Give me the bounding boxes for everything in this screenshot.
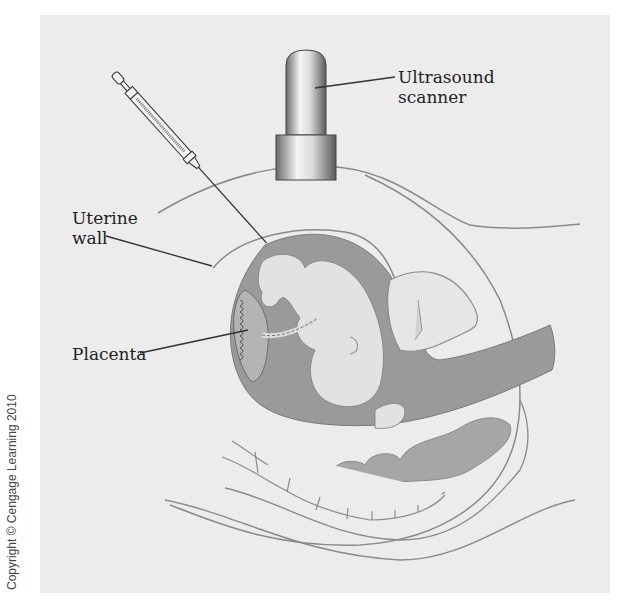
uterine-wall-label: Uterine wall xyxy=(72,208,138,248)
abdomen-outline xyxy=(158,165,580,228)
ultrasound-scanner xyxy=(276,50,336,180)
ultrasound-label-line1: Ultrasound xyxy=(398,67,495,87)
ultrasound-label-line2: scanner xyxy=(398,87,495,107)
uterine-wall-label-line1: Uterine xyxy=(72,208,138,228)
copyright-notice: Copyright © Cengage Learning 2010 xyxy=(5,394,19,590)
bladder xyxy=(375,403,405,428)
ultrasound-label: Ultrasound scanner xyxy=(398,67,495,107)
placenta-label: Placenta xyxy=(72,344,147,364)
ultrasound-leader-line xyxy=(315,77,395,88)
amniocentesis-illustration xyxy=(0,0,642,612)
uterine-fold xyxy=(388,272,478,351)
uterine-wall-label-line2: wall xyxy=(72,228,138,248)
